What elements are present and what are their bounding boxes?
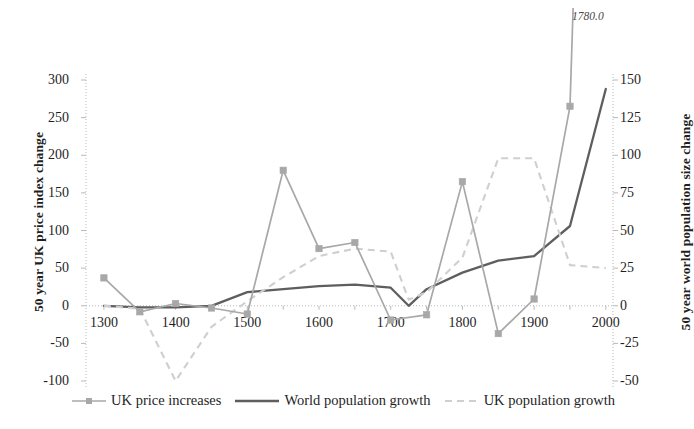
chart-legend: UK price increasesWorld population growt… — [0, 392, 687, 409]
legend-swatch — [235, 395, 279, 407]
data-point-marker — [352, 239, 358, 245]
data-point-marker — [316, 245, 322, 251]
data-point-marker — [388, 317, 394, 323]
data-point-marker — [172, 300, 178, 306]
data-point-marker — [567, 103, 573, 109]
legend-item[interactable]: UK price increases — [72, 392, 221, 409]
legend-label: UK population growth — [484, 392, 615, 409]
data-point-marker — [137, 309, 143, 315]
data-point-marker — [101, 275, 107, 281]
data-point-marker — [459, 178, 465, 184]
data-point-marker — [244, 311, 250, 317]
legend-swatch — [72, 395, 106, 407]
legend-label: UK price increases — [111, 392, 221, 409]
data-point-marker — [531, 296, 537, 302]
legend-swatch — [445, 395, 479, 407]
series-world-population-growth — [104, 89, 606, 307]
annotation-offscale-value: 1780.0 — [572, 10, 604, 22]
legend-item[interactable]: UK population growth — [445, 392, 615, 409]
legend-item[interactable]: World population growth — [235, 392, 430, 409]
series-uk-population-growth — [104, 158, 606, 381]
data-point-marker — [280, 167, 286, 173]
data-point-marker — [423, 312, 429, 318]
data-point-marker — [208, 305, 214, 311]
data-point-marker — [495, 330, 501, 336]
legend-label: World population growth — [284, 392, 430, 409]
